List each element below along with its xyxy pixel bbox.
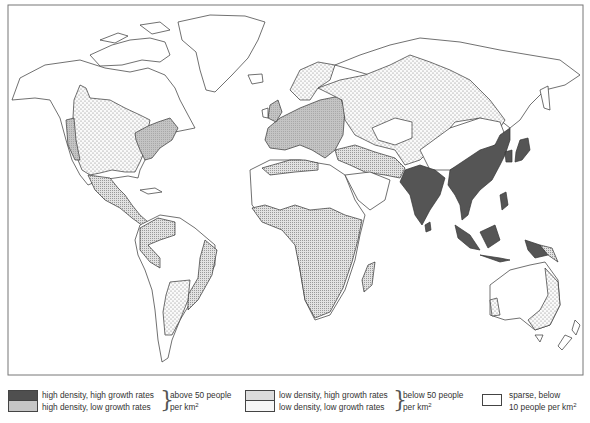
label-high-density-low-growth: high density, low growth rates (42, 402, 151, 413)
range-below-50: below 50 people (403, 390, 463, 401)
label-sparse-line2: 10 people per km2 (509, 402, 576, 413)
swatch-low-density-low-growth (245, 401, 275, 412)
swatch-sparse (482, 394, 502, 406)
legend-group-low-density: low density, high growth rates low densi… (245, 390, 445, 420)
label-high-density-high-growth: high density, high growth rates (42, 390, 154, 401)
legend-group-sparse: sparse, below 10 people per km2 (482, 390, 590, 420)
world-map (0, 0, 590, 380)
swatch-high-density-high-growth (8, 390, 38, 401)
label-sparse-line1: sparse, below (509, 390, 560, 401)
label-low-density-low-growth: low density, low growth rates (279, 402, 384, 413)
swatch-high-density-low-growth (8, 401, 38, 412)
range-unit: per km2 (403, 402, 432, 413)
range-unit: per km2 (170, 402, 199, 413)
swatch-low-density-high-growth (245, 390, 275, 401)
range-above-50: above 50 people (170, 390, 231, 401)
legend-group-high-density: high density, high growth rates high den… (8, 390, 258, 420)
label-low-density-high-growth: low density, high growth rates (279, 390, 388, 401)
legend: high density, high growth rates high den… (0, 384, 590, 423)
